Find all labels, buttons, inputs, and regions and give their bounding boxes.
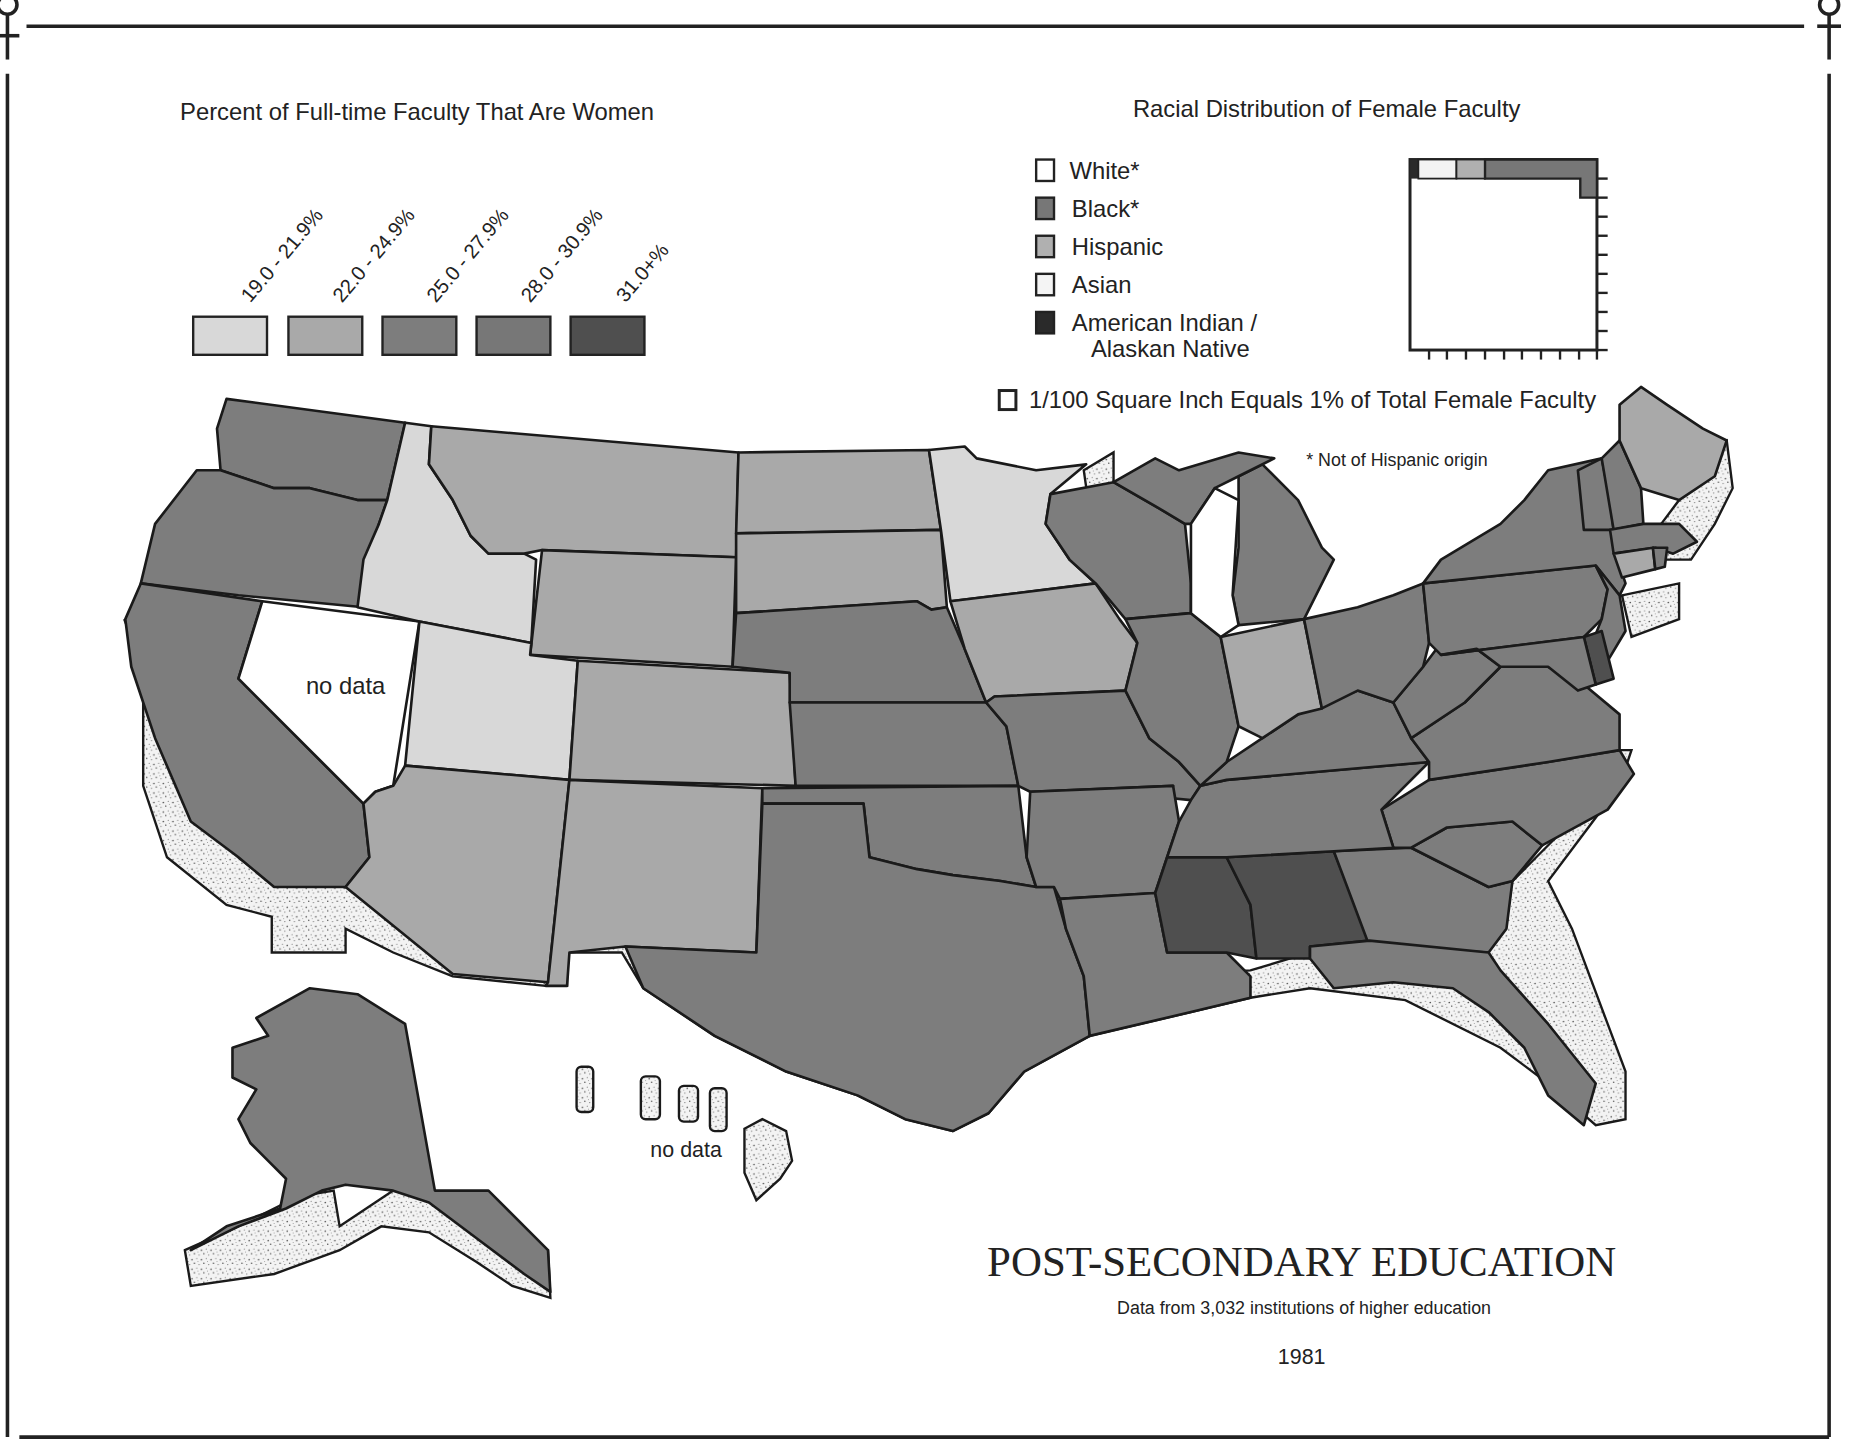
legend-class-label: 22.0 - 24.9% (328, 204, 419, 306)
scale-square-icon (999, 391, 1016, 410)
race-label-hispanic: Hispanic (1072, 233, 1163, 260)
percent-legend: Percent of Full-time Faculty That Are Wo… (180, 98, 673, 355)
state-mi (1233, 464, 1334, 625)
legend-swatch-5 (571, 317, 645, 355)
legend-swatch-1 (193, 317, 267, 355)
swatch-hispanic (1036, 236, 1054, 257)
race-label-black: Black* (1072, 195, 1139, 222)
swatch-asian (1036, 274, 1054, 295)
state-ri (1653, 548, 1667, 569)
scale-note: 1/100 Square Inch Equals 1% of Total Fem… (1029, 386, 1596, 413)
legend-class-label: 19.0 - 21.9% (237, 204, 328, 306)
racial-distribution-square (1410, 160, 1608, 360)
swatch-white (1036, 160, 1054, 181)
race-legend-title: Racial Distribution of Female Faculty (1133, 95, 1521, 122)
state-co (569, 661, 795, 786)
state-nd (736, 450, 941, 533)
us-map: no data no data (124, 387, 1733, 1298)
legend-class-label: 31.0+% (612, 239, 673, 306)
legend-swatch-2 (288, 317, 362, 355)
main-title: POST-SECONDARY EDUCATION (987, 1238, 1616, 1285)
race-legend: Racial Distribution of Female Faculty Wh… (999, 95, 1607, 470)
hawaii: no data (577, 1067, 793, 1200)
footnote: * Not of Hispanic origin (1306, 450, 1488, 470)
subtitle: Data from 3,032 institutions of higher e… (1117, 1298, 1491, 1318)
state-ar (1027, 786, 1179, 899)
female-symbol-icon (1817, 0, 1841, 60)
state-ct (1614, 548, 1656, 578)
state-ks (790, 702, 1019, 785)
title-block: POST-SECONDARY EDUCATION Data from 3,032… (987, 1238, 1616, 1369)
race-label-alaskan-native: Alaskan Native (1091, 335, 1250, 362)
state-wy (530, 550, 736, 667)
legend-swatch-4 (477, 317, 551, 355)
no-data-label-nevada: no data (306, 672, 386, 699)
state-az (346, 766, 570, 983)
race-label-white: White* (1069, 157, 1139, 184)
no-data-label-hawaii: no data (650, 1138, 722, 1162)
state-mt (429, 426, 739, 557)
map-figure: Percent of Full-time Faculty That Are Wo… (0, 0, 1858, 1449)
legend-swatch-3 (382, 317, 456, 355)
swatch-american-indian (1036, 312, 1054, 333)
coast-shadow-longisland (1622, 583, 1679, 637)
race-label-american-indian: American Indian / (1072, 309, 1258, 336)
swatch-black (1036, 198, 1054, 219)
legend-class-label: 25.0 - 27.9% (422, 204, 513, 306)
year: 1981 (1278, 1345, 1326, 1369)
legend-class-label: 28.0 - 30.9% (516, 204, 607, 306)
race-label-asian: Asian (1072, 271, 1132, 298)
percent-legend-title: Percent of Full-time Faculty That Are Wo… (180, 98, 654, 125)
female-symbol-icon (0, 0, 19, 60)
